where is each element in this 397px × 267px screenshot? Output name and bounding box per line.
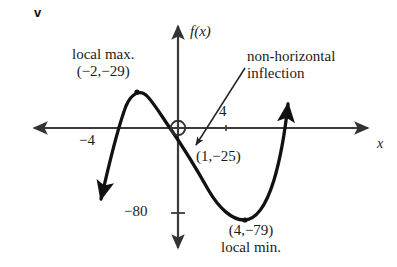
question-marker: v [34,6,42,21]
x-tick-label-4: 4 [219,103,227,120]
local-min-title: local min. [221,239,281,256]
x-tick-label-negative-4: −4 [79,132,95,149]
local-max-title: local max. [72,46,134,63]
function-graph-svg [0,0,397,267]
y-axis-label: f(x) [190,23,211,40]
figure-canvas: v f(x) x local max. (−2,−29) non-horizon… [0,0,397,267]
inflection-title-line2: inflection [247,65,335,82]
x-axis-label: x [377,136,383,152]
local-min-annotation: (4,−79) local min. [221,222,281,256]
local-min-coordinates: (4,−79) [221,222,281,239]
local-max-point-dot [134,89,139,94]
function-curve [101,93,288,220]
local-max-coordinates: (−2,−29) [72,63,134,80]
local-max-annotation: local max. (−2,−29) [72,46,134,80]
inflection-coordinates: (1,−25) [196,148,241,165]
inflection-title-line1: non-horizontal [247,48,335,65]
y-tick-label-negative-80: −80 [124,203,147,220]
inflection-annotation: non-horizontal inflection [247,48,335,82]
